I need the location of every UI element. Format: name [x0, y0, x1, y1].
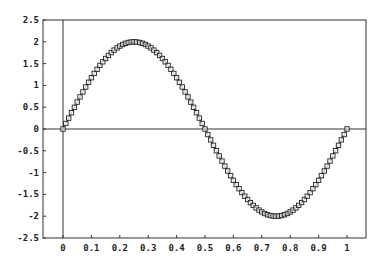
- x-tick-label: 0.3: [140, 243, 156, 253]
- square-marker: [231, 178, 235, 182]
- square-marker: [84, 85, 88, 89]
- square-marker: [194, 111, 198, 115]
- y-tick-label: 1.5: [23, 59, 39, 69]
- square-marker: [172, 71, 176, 75]
- square-marker: [209, 138, 213, 142]
- x-tick-label: 0.1: [83, 243, 99, 253]
- y-tick-label: -1.5: [17, 189, 39, 199]
- sine-chart: 2.521.510.50-0.5-1-1.5-2-2.5 00.10.20.30…: [0, 0, 385, 263]
- x-tick-label: 0: [60, 243, 65, 253]
- square-marker: [319, 174, 323, 178]
- square-marker: [177, 80, 181, 84]
- square-marker: [72, 105, 76, 109]
- y-tick-label: -0.5: [17, 146, 39, 156]
- square-marker: [64, 121, 68, 125]
- square-marker: [214, 149, 218, 153]
- square-marker: [203, 127, 207, 131]
- x-tick-label: 0.7: [254, 243, 270, 253]
- square-marker: [61, 127, 65, 131]
- square-marker: [186, 95, 190, 99]
- square-marker: [328, 159, 332, 163]
- square-marker: [339, 138, 343, 142]
- square-marker: [67, 116, 71, 120]
- square-marker: [325, 164, 329, 168]
- y-tick-label: -1: [28, 168, 39, 178]
- x-tick-label: 0.8: [282, 243, 298, 253]
- square-marker: [200, 121, 204, 125]
- square-marker: [191, 105, 195, 109]
- square-marker: [89, 76, 93, 80]
- y-tick-label: 1: [34, 80, 39, 90]
- x-tick-label: 0.5: [197, 243, 213, 253]
- y-tick-label: 2.5: [23, 15, 39, 25]
- x-tick-label: 0.4: [168, 243, 185, 253]
- x-tick-label: 0.2: [112, 243, 128, 253]
- square-marker: [211, 143, 215, 147]
- square-marker: [206, 132, 210, 136]
- x-tick-label: 0.9: [310, 243, 326, 253]
- square-marker: [217, 154, 221, 158]
- square-marker: [69, 111, 73, 115]
- square-marker: [86, 80, 90, 84]
- square-marker: [331, 154, 335, 158]
- y-tick-label: 2: [34, 37, 39, 47]
- y-tick-label: 0.5: [23, 102, 39, 112]
- square-marker: [336, 143, 340, 147]
- y-tick-label: -2.5: [17, 233, 39, 243]
- square-marker: [314, 182, 318, 186]
- square-marker: [75, 100, 79, 104]
- square-marker: [220, 159, 224, 163]
- square-marker: [223, 164, 227, 168]
- square-marker: [333, 149, 337, 153]
- y-tick-label: 0: [34, 124, 39, 134]
- square-marker: [342, 132, 346, 136]
- square-marker: [174, 76, 178, 80]
- square-marker: [226, 169, 230, 173]
- square-marker: [316, 178, 320, 182]
- square-marker: [78, 95, 82, 99]
- x-tick-label: 0.6: [225, 243, 241, 253]
- square-marker: [345, 127, 349, 131]
- square-marker: [183, 90, 187, 94]
- y-tick-label: -2: [28, 211, 39, 221]
- y-axis: 2.521.510.50-0.5-1-1.5-2-2.5: [17, 15, 46, 243]
- square-marker: [228, 174, 232, 178]
- square-marker: [189, 100, 193, 104]
- square-marker: [322, 169, 326, 173]
- x-tick-label: 1: [344, 243, 349, 253]
- square-marker: [81, 90, 85, 94]
- square-marker: [197, 116, 201, 120]
- square-marker: [180, 85, 184, 89]
